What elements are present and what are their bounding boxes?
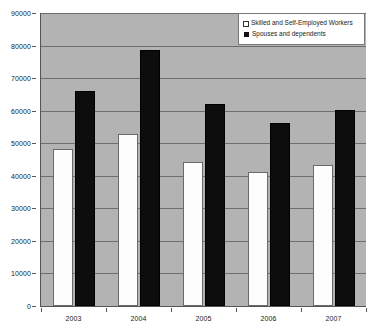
y-tick-label: 50000 [11, 140, 31, 147]
y-tick-mark [32, 78, 36, 79]
y-tick-mark [32, 273, 36, 274]
y-tick-label: 30000 [11, 205, 31, 212]
x-axis: 20032004200520062007 [41, 308, 366, 328]
bar-spouses-2007 [335, 110, 355, 306]
bar-chart: 0100002000030000400005000060000700008000… [0, 0, 375, 336]
x-tick-label: 2003 [66, 315, 82, 322]
x-tick-mark [106, 308, 107, 312]
y-tick-label: 40000 [11, 172, 31, 179]
bar-skilled-2003 [53, 149, 73, 306]
y-tick-label: 60000 [11, 107, 31, 114]
bar-spouses-2006 [270, 123, 290, 306]
legend-item-skilled: Skilled and Self-Employed Workers [243, 18, 361, 29]
gridline [41, 78, 366, 79]
y-tick-label: 10000 [11, 270, 31, 277]
x-tick-mark [301, 308, 302, 312]
plot-area [40, 13, 366, 307]
y-tick-label: 20000 [11, 237, 31, 244]
legend-label-spouses: Spouses and dependents [252, 31, 326, 38]
gridline [41, 46, 366, 47]
open-square-marker-icon [243, 21, 249, 27]
x-tick-mark [236, 308, 237, 312]
x-tick-label: 2007 [326, 315, 342, 322]
y-tick-mark [32, 46, 36, 47]
y-tick-mark [32, 13, 36, 14]
bar-skilled-2006 [248, 172, 268, 306]
y-tick-mark [32, 241, 36, 242]
x-tick-mark [41, 308, 42, 312]
bar-skilled-2005 [183, 162, 203, 306]
y-tick-label: 70000 [11, 75, 31, 82]
x-tick-label: 2006 [261, 315, 277, 322]
y-tick-mark [32, 143, 36, 144]
x-tick-label: 2005 [196, 315, 212, 322]
legend-item-spouses: Spouses and dependents [243, 29, 361, 40]
chart-legend: Skilled and Self-Employed Workers Spouse… [238, 13, 365, 45]
filled-square-marker-icon [244, 32, 249, 37]
y-tick-label: 80000 [11, 42, 31, 49]
bar-spouses-2003 [75, 91, 95, 306]
x-tick-label: 2004 [131, 315, 147, 322]
y-tick-mark [32, 306, 36, 307]
bar-skilled-2004 [118, 134, 138, 306]
y-tick-mark [32, 176, 36, 177]
y-axis: 0100002000030000400005000060000700008000… [0, 13, 36, 306]
y-tick-mark [32, 111, 36, 112]
x-tick-mark [366, 308, 367, 312]
bar-spouses-2004 [140, 50, 160, 306]
bar-spouses-2005 [205, 104, 225, 306]
y-tick-label: 90000 [11, 10, 31, 17]
y-tick-mark [32, 208, 36, 209]
legend-label-skilled: Skilled and Self-Employed Workers [251, 20, 353, 27]
y-tick-label: 0 [27, 303, 31, 310]
bar-skilled-2007 [313, 165, 333, 306]
x-tick-mark [171, 308, 172, 312]
